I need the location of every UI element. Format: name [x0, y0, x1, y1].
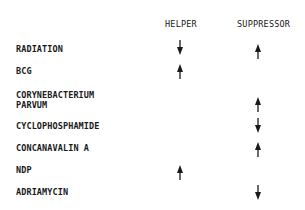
arrow-up-icon: [253, 96, 263, 112]
arrow-up-icon: [175, 164, 185, 180]
row-label-ndp: NDP: [16, 165, 32, 175]
row-label-radiation: RADIATION: [16, 44, 63, 54]
column-header-helper: HELPER: [165, 19, 197, 29]
column-header-suppressor: SUPPRESSOR: [237, 19, 290, 29]
arrow-up-icon: [253, 43, 263, 59]
row-label-cyclophosphamide: CYCLOPHOSPHAMIDE: [16, 121, 99, 131]
arrow-down-icon: [253, 185, 263, 201]
row-label-bcg: BCG: [16, 66, 32, 76]
arrow-down-icon: [175, 40, 185, 56]
row-label-adriamycin: ADRIAMYCIN: [16, 187, 68, 197]
row-label-corynebacterium-parvum: CORYNEBACTERIUM PARVUM: [16, 90, 94, 110]
arrow-up-icon: [175, 63, 185, 79]
arrow-down-icon: [253, 118, 263, 134]
arrow-up-icon: [253, 141, 263, 157]
row-label-concanavalin-a: CONCANAVALIN A: [16, 143, 89, 153]
